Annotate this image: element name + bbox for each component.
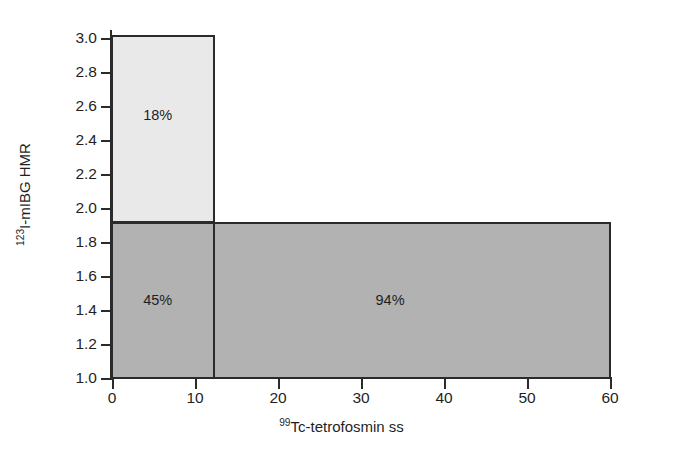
x-tick (195, 379, 197, 389)
y-tick (101, 106, 112, 108)
x-tick-label: 0 (92, 390, 132, 406)
y-axis-title-text: I-mIBG HMR (16, 143, 33, 229)
y-tick (101, 140, 112, 142)
y-tick (101, 378, 112, 380)
y-tick-label: 2.2 (57, 166, 97, 182)
region-high-ss-low-hmr (213, 222, 611, 379)
x-axis-title: 99Tc-tetrofosmin ss (0, 418, 683, 435)
x-axis-title-text: Tc-tetrofosmin ss (290, 418, 403, 435)
y-tick (101, 38, 112, 40)
region-label-low-ss-high-hmr: 18% (143, 107, 172, 122)
x-tick (361, 379, 363, 389)
y-tick (101, 208, 112, 210)
y-tick-label: 2.4 (57, 132, 97, 148)
region-label-low-ss-low-hmr: 45% (143, 293, 172, 308)
y-tick-label: 1.0 (57, 370, 97, 386)
y-tick (101, 310, 112, 312)
region-low-ss-high-hmr (111, 35, 215, 223)
x-tick-label: 50 (507, 390, 547, 406)
y-axis-title-superscript: 123 (15, 229, 26, 246)
y-axis-title: 123I-mIBG HMR (16, 85, 33, 305)
y-tick-label: 2.6 (57, 98, 97, 114)
y-tick (101, 72, 112, 74)
y-tick (101, 344, 112, 346)
y-tick-label: 1.2 (57, 336, 97, 352)
y-tick-label: 2.0 (57, 200, 97, 216)
y-tick-label: 3.0 (57, 30, 97, 46)
x-tick-label: 40 (424, 390, 464, 406)
x-tick (278, 379, 280, 389)
y-tick (101, 174, 112, 176)
x-tick (112, 379, 114, 389)
y-tick (101, 276, 112, 278)
x-tick-label: 60 (590, 390, 630, 406)
x-tick-label: 30 (341, 390, 381, 406)
y-tick-label: 1.4 (57, 302, 97, 318)
y-tick-label: 1.8 (57, 234, 97, 250)
region-label-high-ss-low-hmr: 94% (376, 293, 405, 308)
y-tick-label: 2.8 (57, 64, 97, 80)
x-tick (527, 379, 529, 389)
x-tick-label: 10 (175, 390, 215, 406)
x-tick-label: 20 (258, 390, 298, 406)
risk-stratification-chart: 18%45%94% 1.01.21.41.61.82.02.22.42.62.8… (0, 0, 683, 452)
x-axis-title-superscript: 99 (279, 417, 290, 428)
x-tick (444, 379, 446, 389)
y-tick (101, 242, 112, 244)
x-tick (610, 379, 612, 389)
y-tick-label: 1.6 (57, 268, 97, 284)
